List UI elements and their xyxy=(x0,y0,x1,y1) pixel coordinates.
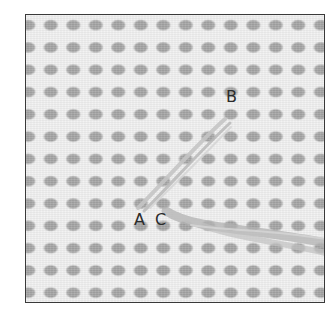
label-c: C xyxy=(155,212,166,228)
canvas-mesh-figure xyxy=(25,14,325,303)
label-b: B xyxy=(226,89,237,105)
stitch-thread xyxy=(26,15,325,303)
label-a: A xyxy=(134,212,145,228)
